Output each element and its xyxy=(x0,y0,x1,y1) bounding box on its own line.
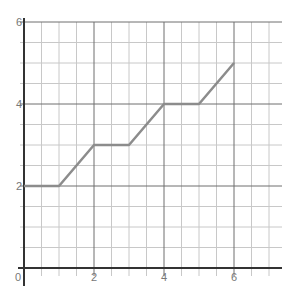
y-tick-label: 6 xyxy=(16,16,22,28)
axes xyxy=(18,18,282,286)
x-tick-label: 4 xyxy=(161,271,167,283)
minor-gridlines xyxy=(20,22,282,276)
y-tick-label: 4 xyxy=(16,98,22,110)
x-tick-label: 2 xyxy=(91,271,97,283)
tick-labels: 0246246 xyxy=(15,16,237,283)
x-tick-label: 0 xyxy=(15,271,21,283)
x-tick-label: 6 xyxy=(231,271,237,283)
chart-plot: 0246246 xyxy=(0,0,298,301)
y-tick-label: 2 xyxy=(16,180,22,192)
